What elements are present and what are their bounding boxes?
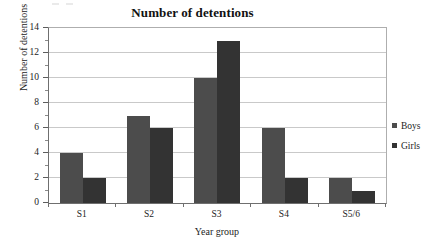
y-axis-minor-tick [45,115,48,116]
x-axis-labels: S1S2S3S4S5/6 [48,209,386,223]
x-axis-title: Year group [48,226,386,237]
legend-swatch-icon [392,123,397,128]
bar-group [49,28,116,203]
bar [329,178,352,203]
y-axis-tick [43,52,48,53]
x-axis-tick-label: S3 [211,209,221,219]
x-axis-tick [318,203,319,207]
x-axis-tick [183,203,184,207]
y-axis-tick-label: 2 [34,172,39,182]
bar [262,128,285,203]
x-axis-tick [385,203,386,207]
x-axis-tick [250,203,251,207]
y-axis-minor-tick [45,90,48,91]
x-axis-tick-label: S2 [144,209,154,219]
legend-item-label: Boys [401,121,421,131]
legend-item-label: Girls [401,141,420,151]
y-axis-tick [43,177,48,178]
y-axis-tick [43,152,48,153]
y-axis-tick [43,127,48,128]
bar-chart: Number of detentions 02468101214 Number … [0,0,443,249]
y-axis-tick [43,27,48,28]
bar-group [116,28,183,203]
legend-item-girls[interactable]: Girls [392,138,442,153]
y-axis-tick [43,77,48,78]
y-axis-tick-label: 0 [34,197,39,207]
x-axis-tick [48,203,49,207]
plot-area [48,27,387,204]
x-axis-tick-label: S1 [77,209,87,219]
y-axis-tick-label: 8 [34,97,39,107]
legend-swatch-icon [392,143,397,148]
bar [150,128,173,203]
chart-title: Number of detentions [0,5,385,21]
y-axis-tick-label: 6 [34,122,39,132]
bar [194,78,217,203]
y-axis-tick-label: 12 [30,47,40,57]
bar [217,41,240,204]
x-axis-tick-label: S4 [279,209,289,219]
bar-group [319,28,386,203]
y-axis-tick [43,102,48,103]
bar [285,178,308,203]
bar-group [184,28,251,203]
y-axis-minor-tick [45,165,48,166]
bar-group [251,28,318,203]
y-axis-minor-tick [45,65,48,66]
x-axis-ticks [48,203,386,208]
y-axis-tick-label: 4 [34,147,39,157]
y-axis-title: Number of detentions [18,0,29,123]
x-axis-tick [115,203,116,207]
bar [83,178,106,203]
y-axis-minor-tick [45,140,48,141]
bar [352,191,375,204]
y-axis-tick-label: 10 [30,72,40,82]
bars-layer [49,28,386,203]
bar [127,116,150,204]
y-axis-minor-tick [45,190,48,191]
y-axis-minor-tick [45,40,48,41]
x-axis-tick-label: S5/6 [343,209,360,219]
chart-legend: BoysGirls [392,118,442,158]
bar [60,153,83,203]
legend-item-boys[interactable]: Boys [392,118,442,133]
y-axis-tick-label: 14 [30,22,40,32]
